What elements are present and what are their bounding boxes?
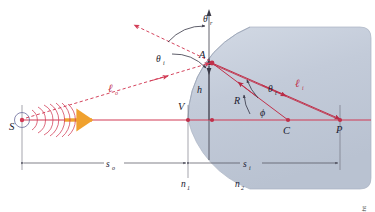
svg-text:θ: θ [268,84,273,94]
label-height: h [197,84,202,95]
svg-text:θ: θ [203,14,208,24]
svg-text:ℓ: ℓ [108,82,113,94]
label-image-point: P [335,124,343,135]
vertex-dot [186,118,190,122]
glass-medium [188,27,371,189]
image-dot [338,118,342,122]
label-theta-i: θ i [156,54,165,66]
optics-refraction-figure: S V A C P h R ϕ θ r θ i θ t ℓ o ℓ [0,0,375,212]
diagram-canvas: S V A C P h R ϕ θ r θ i θ t ℓ o ℓ [0,0,375,212]
svg-text:n: n [235,179,240,189]
svg-text:i: i [163,60,165,66]
svg-text:s: s [243,159,247,169]
svg-text:n: n [181,179,186,189]
svg-text:o: o [115,90,118,96]
svg-text:θ: θ [156,54,161,64]
credit-text: Courtesy of Eugene Hecht [360,206,367,212]
label-s-o: s o [106,159,115,171]
center-dot [286,118,290,122]
foot-dot [210,118,214,122]
label-radius: R [233,95,240,106]
svg-text:s: s [106,159,110,169]
svg-text:1: 1 [187,185,190,191]
label-source: S [9,120,15,132]
svg-text:r: r [210,20,213,26]
svg-text:ℓ: ℓ [295,77,300,89]
label-point-a: A [198,49,206,60]
label-ell-o: ℓ o [108,82,118,96]
label-center: C [283,125,291,136]
point-a-dot [210,61,215,66]
svg-text:o: o [112,165,115,171]
label-n1: n 1 [181,179,190,191]
svg-text:2: 2 [241,185,244,191]
label-phi: ϕ [260,107,265,118]
label-vertex: V [178,101,186,112]
